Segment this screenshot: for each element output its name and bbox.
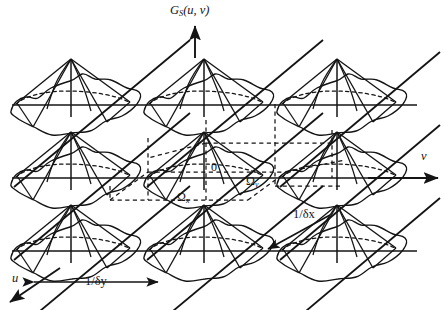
omega-y-main: Ω <box>246 174 255 188</box>
axis-label-gs-args: (u, v) <box>183 3 209 17</box>
axis-label-u: u <box>12 272 18 285</box>
axis-label-gs-main: G <box>170 3 179 17</box>
origin-label: 0 <box>211 161 217 173</box>
spacing-x-label: 1/δx <box>293 208 315 221</box>
omega-x-sub: x <box>186 196 190 205</box>
axis-label-v: v <box>421 150 427 163</box>
spacing-y-label: 1/δy <box>85 275 107 288</box>
axis-label-gs: GS(u, v) <box>170 4 210 19</box>
spectrum-lattice-figure: GS(u, v) v u 0 Ωx Ωy 1/δx 1/δy <box>0 0 444 310</box>
omega-y-label: Ωy <box>246 175 258 189</box>
omega-y-sub: y <box>255 180 259 189</box>
omega-x-main: Ω <box>177 190 186 204</box>
omega-x-label: Ωx <box>177 191 189 205</box>
figure-canvas <box>0 0 444 310</box>
